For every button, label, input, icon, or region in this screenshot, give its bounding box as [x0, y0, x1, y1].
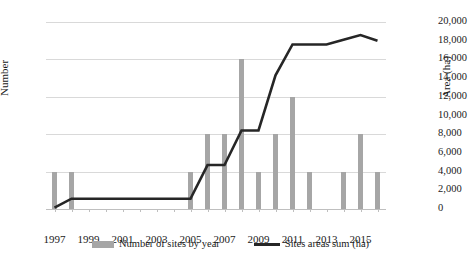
y-axis-right-tick-label: 6,000 [438, 147, 472, 158]
bar-swatch-icon [92, 241, 114, 248]
x-axis-tickmark [361, 209, 362, 212]
line-swatch-icon [254, 243, 280, 246]
x-axis-tickmark [55, 209, 56, 212]
x-axis-tickmark [225, 209, 226, 212]
x-axis-tickmark [378, 209, 379, 212]
legend-item-line: Sites areas sum (ha) [254, 239, 369, 250]
line-series-group [46, 22, 386, 209]
legend-label-bars: Number of sites by year [119, 239, 220, 250]
x-axis-tickmark [259, 209, 260, 212]
y-axis-right-tick-label: 18,000 [438, 35, 472, 46]
x-axis-tickmark [242, 209, 243, 212]
x-axis-tickmark [174, 209, 175, 212]
legend-item-bars: Number of sites by year [92, 239, 220, 250]
x-axis-tickmark [123, 209, 124, 212]
x-axis-tickmark [72, 209, 73, 212]
x-axis-tickmark [208, 209, 209, 212]
x-axis-tickmark [344, 209, 345, 212]
y-axis-right-tick-label: 2,000 [438, 184, 472, 195]
y-axis-right-tick-label: 0 [438, 203, 472, 214]
y-axis-right-tick-label: 14,000 [438, 72, 472, 83]
x-axis-tickmark [310, 209, 311, 212]
y-axis-right-tick-label: 10,000 [438, 110, 472, 121]
x-axis-tickmark [327, 209, 328, 212]
chart-legend: Number of sites by year Sites areas sum … [0, 239, 461, 250]
x-axis-tickmark [276, 209, 277, 212]
x-axis-tickmark [157, 209, 158, 212]
y-axis-right-tick-label: 16,000 [438, 53, 472, 64]
legend-label-line: Sites areas sum (ha) [285, 239, 369, 250]
y-axis-right-tick-label: 20,000 [438, 16, 472, 27]
y-axis-right-tick-label: 8,000 [438, 128, 472, 139]
x-axis-tickmark [140, 209, 141, 212]
y-axis-right-tick-label: 4,000 [438, 166, 472, 177]
y-axis-right-tick-label: 12,000 [438, 91, 472, 102]
y-axis-left-title: Number [0, 60, 10, 96]
x-axis-tickmark [89, 209, 90, 212]
sites-areas-sum-line [46, 22, 386, 209]
gridline [46, 209, 386, 210]
x-axis-tickmark [106, 209, 107, 212]
x-axis-tickmark [293, 209, 294, 212]
plot-area: 012345 02,0004,0006,0008,00010,00012,000… [46, 22, 386, 209]
x-axis-tickmark [191, 209, 192, 212]
